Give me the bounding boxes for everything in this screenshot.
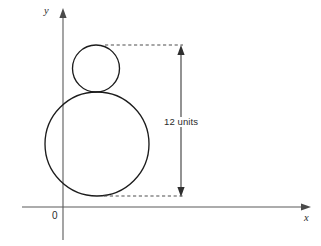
dimension-arrowhead-up-icon	[177, 45, 184, 55]
y-axis-arrowhead-icon	[59, 8, 66, 18]
x-axis-label: x	[304, 213, 309, 224]
small-circle	[73, 45, 120, 92]
y-axis-label: y	[44, 6, 49, 17]
origin-label: 0	[52, 211, 58, 221]
x-axis-arrowhead-icon	[301, 203, 311, 210]
x-axis	[22, 203, 311, 210]
large-circle	[45, 92, 149, 196]
y-axis	[59, 8, 66, 240]
figure-canvas: y x 0 12 units	[0, 0, 321, 246]
diagram-svg	[0, 0, 321, 246]
dimension-arrowhead-down-icon	[177, 187, 184, 197]
dimension-label: 12 units	[163, 117, 199, 127]
